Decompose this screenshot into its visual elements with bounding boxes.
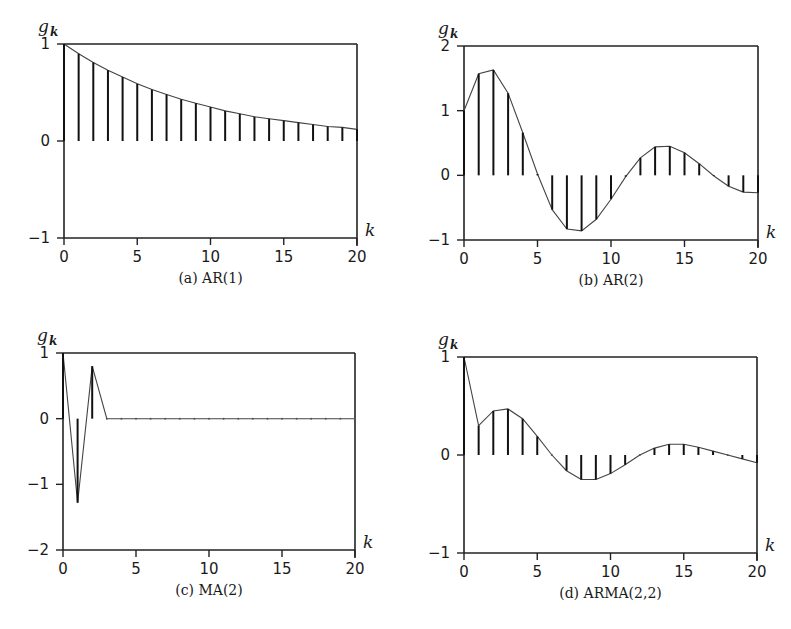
figure: −10105101520gkk(a) AR(1)−101205101520gkk… (0, 0, 791, 629)
stem-marker (179, 418, 181, 420)
y-tick-label: −1 (428, 231, 450, 249)
stem-marker (208, 418, 210, 420)
y-tick-label: 2 (440, 37, 450, 55)
stem-marker (120, 418, 122, 420)
panel-caption: (b) AR(2) (579, 272, 644, 288)
stem-marker (266, 418, 268, 420)
x-tick-label: 15 (274, 248, 293, 266)
stem-marker (639, 454, 641, 456)
x-tick-label: 0 (59, 248, 69, 266)
y-tick-label: 0 (40, 132, 50, 150)
y-axis-label: g (438, 329, 449, 349)
stem-marker (354, 418, 356, 420)
x-tick-label: 5 (532, 563, 542, 581)
y-tick-label: 1 (39, 344, 49, 362)
y-tick-label: 0 (39, 410, 49, 428)
stem-marker (252, 418, 254, 420)
y-tick-label: 1 (440, 348, 450, 366)
x-tick-label: 20 (747, 563, 766, 581)
y-axis-label-subscript: k (450, 27, 458, 41)
stem-marker (223, 418, 225, 420)
y-axis-label: g (37, 325, 48, 345)
x-tick-label: 10 (601, 563, 620, 581)
stem-marker (164, 418, 166, 420)
y-axis-label: g (38, 16, 49, 36)
y-axis-label-subscript: k (450, 338, 458, 352)
x-tick-label: 0 (58, 560, 68, 578)
x-tick-label: 5 (132, 248, 142, 266)
x-tick-label: 15 (675, 250, 694, 268)
x-axis-label: k (363, 532, 373, 552)
panel-caption: (a) AR(1) (178, 270, 242, 286)
panel-caption: (d) ARMA(2,2) (559, 585, 662, 601)
y-tick-label: −1 (27, 475, 49, 493)
y-tick-label: 0 (440, 446, 450, 464)
panel-caption: (c) MA(2) (175, 582, 243, 598)
series-line (63, 353, 355, 503)
stem-marker (281, 418, 283, 420)
x-tick-label: 0 (459, 250, 469, 268)
x-tick-label: 15 (272, 560, 291, 578)
panel-c: −2−10105101520gkk(c) MA(2) (27, 325, 373, 598)
stem-marker (339, 418, 341, 420)
stem-marker (106, 418, 108, 420)
x-tick-label: 10 (199, 560, 218, 578)
y-tick-label: −2 (27, 541, 49, 559)
stem-marker (296, 418, 298, 420)
x-tick-label: 10 (201, 248, 220, 266)
panel-a: −10105101520gkk(a) AR(1) (28, 16, 375, 286)
x-axis-label: k (765, 535, 775, 555)
y-tick-label: −1 (28, 229, 50, 247)
x-axis-label: k (766, 222, 776, 242)
x-tick-label: 20 (345, 560, 364, 578)
y-axis-label: g (438, 18, 449, 38)
x-tick-label: 5 (131, 560, 141, 578)
stem-marker (551, 454, 553, 456)
stem-marker (237, 418, 239, 420)
x-tick-label: 5 (533, 250, 543, 268)
y-tick-label: 0 (440, 166, 450, 184)
x-tick-label: 20 (347, 248, 366, 266)
x-tick-label: 20 (748, 250, 767, 268)
stem-marker (193, 418, 195, 420)
x-axis-label: k (365, 220, 375, 240)
x-tick-label: 15 (674, 563, 693, 581)
stem-marker (310, 418, 312, 420)
stem-marker (325, 418, 327, 420)
panel-b: −101205101520gkk(b) AR(2) (428, 18, 776, 288)
panel-d: −10105101520gkk(d) ARMA(2,2) (428, 329, 775, 601)
y-tick-label: 1 (440, 102, 450, 120)
stem-marker (135, 418, 137, 420)
y-tick-label: −1 (428, 544, 450, 562)
stem-marker (150, 418, 152, 420)
y-tick-label: 1 (40, 35, 50, 53)
stem-marker (727, 454, 729, 456)
x-tick-label: 10 (601, 250, 620, 268)
y-axis-label-subscript: k (49, 334, 57, 348)
x-tick-label: 0 (459, 563, 469, 581)
y-axis-label-subscript: k (50, 25, 58, 39)
